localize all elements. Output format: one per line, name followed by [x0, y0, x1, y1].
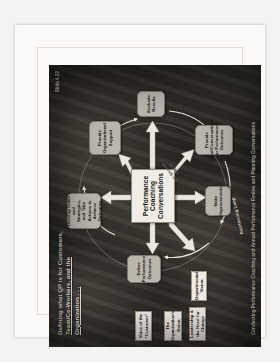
presentation-slide: Defining what QP is for Customers, Team/…	[49, 65, 261, 347]
photographed-page: Defining what QP is for Customers, Team/…	[0, 0, 280, 362]
slide-vignette	[49, 65, 261, 347]
paper-sheet: Defining what QP is for Customers, Team/…	[15, 25, 265, 337]
slide-rotated-wrapper: Defining what QP is for Customers, Team/…	[49, 65, 261, 347]
